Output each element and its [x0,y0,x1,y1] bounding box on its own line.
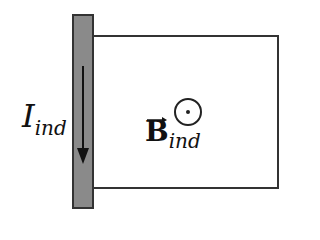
induced-field-label: Bind [145,118,201,146]
wire-loop [93,36,278,188]
induced-current-label: Iind [22,100,67,132]
